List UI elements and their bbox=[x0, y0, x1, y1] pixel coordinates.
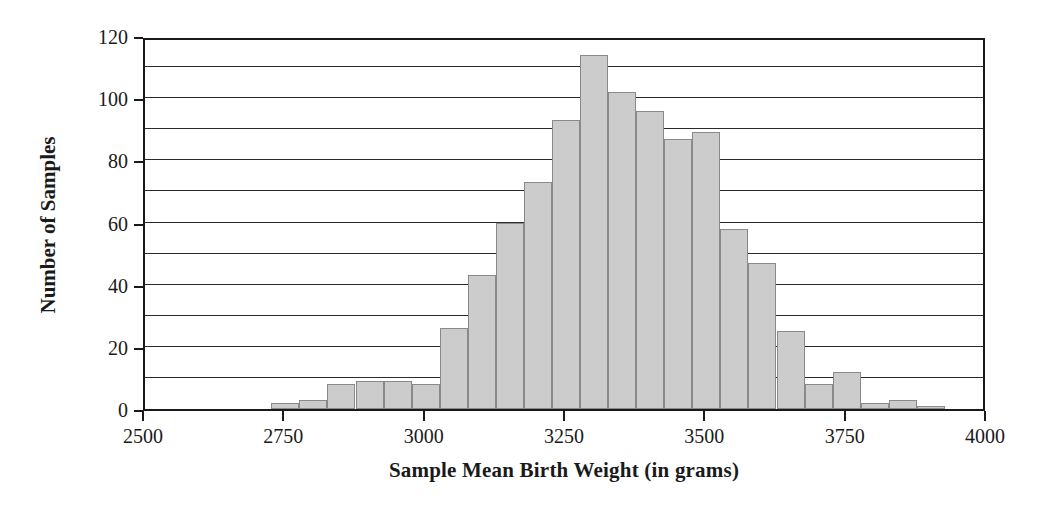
histogram-figure: Number of Samples 020406080100120 250027… bbox=[0, 0, 1037, 507]
histogram-bar bbox=[327, 384, 355, 409]
y-tick bbox=[134, 37, 143, 39]
histogram-bar bbox=[636, 111, 664, 409]
histogram-bar bbox=[468, 275, 496, 409]
gridline bbox=[145, 97, 983, 98]
histogram-bar bbox=[580, 55, 608, 409]
x-tick-label: 3750 bbox=[800, 425, 890, 448]
x-tick-label: 3000 bbox=[379, 425, 469, 448]
histogram-bar bbox=[692, 132, 720, 409]
y-axis-title-text: Number of Samples bbox=[36, 136, 61, 313]
y-tick-label: 40 bbox=[68, 276, 128, 296]
x-tick-label: 2500 bbox=[98, 425, 188, 448]
y-tick bbox=[134, 286, 143, 288]
histogram-bar bbox=[496, 223, 524, 410]
histogram-bar bbox=[440, 328, 468, 409]
x-tick bbox=[142, 411, 144, 421]
histogram-bar bbox=[299, 400, 327, 409]
histogram-bar bbox=[833, 372, 861, 409]
histogram-bar bbox=[917, 406, 945, 409]
x-axis-title: Sample Mean Birth Weight (in grams) bbox=[143, 458, 985, 483]
x-tick bbox=[703, 411, 705, 421]
x-tick-label: 4000 bbox=[940, 425, 1030, 448]
y-tick bbox=[134, 99, 143, 101]
histogram-bar bbox=[861, 403, 889, 409]
y-tick-label: 80 bbox=[68, 151, 128, 171]
plot-area bbox=[143, 38, 985, 411]
x-tick-label: 2750 bbox=[238, 425, 328, 448]
histogram-bar bbox=[889, 400, 917, 409]
y-tick-label: 120 bbox=[68, 27, 128, 47]
x-tick-label: 3250 bbox=[519, 425, 609, 448]
x-tick-label: 3500 bbox=[659, 425, 749, 448]
histogram-bar bbox=[748, 263, 776, 409]
gridline bbox=[145, 66, 983, 67]
y-tick-label: 0 bbox=[68, 400, 128, 420]
x-tick bbox=[984, 411, 986, 421]
x-tick bbox=[563, 411, 565, 421]
histogram-bar bbox=[412, 384, 440, 409]
y-tick-label: 20 bbox=[68, 338, 128, 358]
x-tick bbox=[282, 411, 284, 421]
y-tick-label: 60 bbox=[68, 214, 128, 234]
y-tick bbox=[134, 348, 143, 350]
histogram-bar bbox=[384, 381, 412, 409]
histogram-bar bbox=[805, 384, 833, 409]
x-tick bbox=[844, 411, 846, 421]
histogram-bar bbox=[608, 92, 636, 409]
y-axis-title: Number of Samples bbox=[28, 38, 68, 411]
histogram-bar bbox=[552, 120, 580, 409]
y-tick bbox=[134, 161, 143, 163]
histogram-bar bbox=[777, 331, 805, 409]
histogram-bar bbox=[524, 182, 552, 409]
histogram-bar bbox=[356, 381, 384, 409]
y-tick-label: 100 bbox=[68, 89, 128, 109]
x-tick bbox=[423, 411, 425, 421]
histogram-bar bbox=[720, 229, 748, 409]
histogram-bar bbox=[664, 139, 692, 409]
y-tick bbox=[134, 224, 143, 226]
histogram-bar bbox=[271, 403, 299, 409]
